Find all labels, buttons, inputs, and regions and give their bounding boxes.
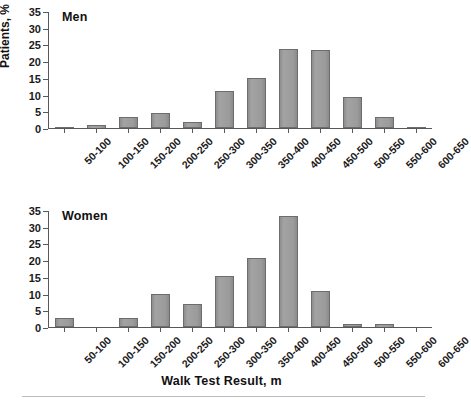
y-tick-label: 5: [35, 107, 41, 118]
x-tick-mark: [96, 129, 97, 133]
y-tick-label: 30: [29, 222, 41, 233]
bar-50-100: [55, 318, 74, 327]
x-tick-label-100-150: 100-150: [115, 334, 151, 370]
x-tick-label-600-650: 600-650: [435, 334, 471, 370]
x-tick-mark: [320, 129, 321, 133]
x-tick-label-150-200: 150-200: [147, 135, 183, 171]
bar-150-200: [119, 117, 138, 128]
x-tick-mark: [320, 328, 321, 332]
x-tick-mark: [384, 328, 385, 332]
x-tick-label-500-550: 500-550: [371, 135, 407, 171]
panel-women: Women 05101520253035 50-100100-150150-20…: [0, 200, 443, 365]
y-tick-mark: [43, 129, 48, 130]
x-tick-mark: [352, 328, 353, 332]
y-tick-label: 35: [29, 7, 41, 18]
bar-group-women: [48, 211, 432, 327]
x-axis-line-men: [48, 128, 432, 129]
bar-550-600: [375, 324, 394, 327]
bar-400-450: [279, 49, 298, 128]
x-tick-label-600-650: 600-650: [435, 135, 471, 171]
bar-group-men: [48, 12, 432, 128]
y-tick-label: 5: [35, 306, 41, 317]
bar-50-100: [55, 127, 74, 129]
x-tick-label-450-500: 450-500: [339, 135, 375, 171]
x-tick-mark: [64, 328, 65, 332]
y-tick-label: 25: [29, 40, 41, 51]
panel-men: Men 05101520253035 50-100100-150150-2002…: [0, 0, 443, 196]
bar-300-350: [215, 91, 234, 128]
x-tick-mark: [256, 328, 257, 332]
bar-250-300: [183, 304, 202, 327]
y-tick-label: 20: [29, 57, 41, 68]
x-tick-label-550-600: 550-600: [403, 135, 439, 171]
bar-400-450: [279, 216, 298, 327]
x-tick-label-400-450: 400-450: [307, 135, 343, 171]
x-tick-label-200-250: 200-250: [179, 135, 215, 171]
bar-150-200: [119, 318, 138, 327]
x-tick-mark: [224, 129, 225, 133]
x-tick-mark: [416, 129, 417, 133]
bar-350-400: [247, 258, 266, 328]
y-tick-label: 20: [29, 256, 41, 267]
bar-450-500: [311, 291, 330, 327]
bar-500-550: [343, 97, 362, 128]
x-tick-label-500-550: 500-550: [371, 334, 407, 370]
bar-250-300: [183, 122, 202, 128]
plot-area-women: 05101520253035: [48, 211, 432, 328]
y-tick-label: 15: [29, 73, 41, 84]
x-tick-label-100-150: 100-150: [115, 135, 151, 171]
x-tick-label-200-250: 200-250: [179, 334, 215, 370]
x-tick-mark: [64, 129, 65, 133]
bar-500-550: [343, 324, 362, 327]
x-tick-mark: [352, 129, 353, 133]
x-tick-mark: [192, 328, 193, 332]
y-tick-label: 25: [29, 239, 41, 250]
x-tick-label-550-600: 550-600: [403, 334, 439, 370]
bar-450-500: [311, 50, 330, 128]
x-tick-label-150-200: 150-200: [147, 334, 183, 370]
x-tick-mark: [256, 129, 257, 133]
x-tick-mark: [128, 328, 129, 332]
y-tick-label: 30: [29, 23, 41, 34]
y-tick-mark: [43, 328, 48, 329]
x-tick-label-250-300: 250-300: [211, 135, 247, 171]
x-tick-mark: [128, 129, 129, 133]
x-tick-mark: [96, 328, 97, 332]
y-tick-label: 10: [29, 90, 41, 101]
x-tick-label-350-400: 350-400: [275, 135, 311, 171]
x-tick-label-50-100: 50-100: [82, 135, 114, 167]
x-tick-label-450-500: 450-500: [339, 334, 375, 370]
plot-area-men: 05101520253035: [48, 12, 432, 129]
y-tick-label: 10: [29, 289, 41, 300]
x-tick-mark: [224, 328, 225, 332]
x-tick-mark: [288, 328, 289, 332]
x-tick-mark: [384, 129, 385, 133]
x-tick-label-400-450: 400-450: [307, 334, 343, 370]
x-tick-label-300-350: 300-350: [243, 334, 279, 370]
bar-350-400: [247, 78, 266, 128]
x-tick-label-350-400: 350-400: [275, 334, 311, 370]
y-tick-label: 15: [29, 272, 41, 283]
bar-200-250: [151, 294, 170, 327]
x-tick-label-300-350: 300-350: [243, 135, 279, 171]
bar-550-600: [375, 117, 394, 128]
bottom-divider: [22, 396, 425, 397]
x-tick-mark: [160, 129, 161, 133]
x-tick-mark: [416, 328, 417, 332]
bar-200-250: [151, 113, 170, 128]
y-tick-label: 0: [35, 323, 41, 334]
bar-300-350: [215, 276, 234, 327]
bar-600-650: [407, 127, 426, 129]
x-tick-mark: [288, 129, 289, 133]
x-axis-title: Walk Test Result, m: [0, 374, 443, 388]
y-tick-label: 0: [35, 124, 41, 135]
x-tick-label-250-300: 250-300: [211, 334, 247, 370]
x-tick-label-50-100: 50-100: [82, 334, 114, 366]
bar-100-150: [87, 125, 106, 128]
y-tick-label: 35: [29, 206, 41, 217]
x-tick-mark: [160, 328, 161, 332]
x-tick-mark: [192, 129, 193, 133]
x-axis-line-women: [48, 327, 432, 328]
